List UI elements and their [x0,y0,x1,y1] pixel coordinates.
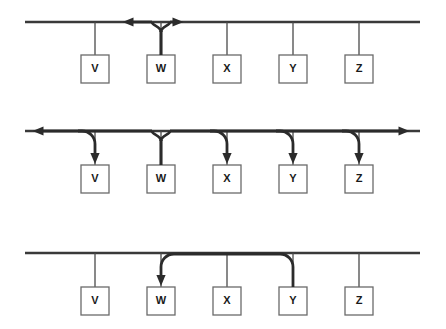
panel-2-receive-arrowhead-v [90,153,99,164]
panel-3-station-label-x: X [223,294,231,306]
network-bus-diagram: VWXYZVWXYZVWXYZ [0,0,446,329]
panel-2-source-fork-left [152,131,161,141]
panel-1-station-label-w: W [156,62,167,74]
panel-3-station-label-w: W [156,294,167,306]
panel-2-source-fork-right [161,131,170,141]
panel-1-station-label-y: Y [289,62,297,74]
panel-2-receive-arrowhead-z [354,153,363,164]
panel-1-station-label-v: V [91,62,99,74]
panel-1-source-fork-right [161,22,170,32]
panel-1-arrowhead-left [123,17,134,26]
panel-2-arrowhead-left [33,126,44,135]
panel-2-station-label-x: X [223,172,231,184]
panel-1-source-fork-left [152,22,161,32]
diagram-canvas: VWXYZVWXYZVWXYZ [0,0,446,329]
panel-3-station-label-z: Z [356,294,363,306]
panel-2-receive-branch-y [276,131,293,153]
panel-2-receive-branch-x [210,131,227,153]
panel-2-station-label-z: Z [356,172,363,184]
panel-2-receive-arrowhead-y [288,153,297,164]
panel-1-arrowhead-right [173,17,184,26]
panel-1-station-label-x: X [223,62,231,74]
panel-2-receive-branch-z [342,131,359,153]
panel-1-station-label-z: Z [356,62,363,74]
panel-2-receive-arrowhead-x [222,153,231,164]
panel-3-station-label-v: V [91,294,99,306]
panel-2-station-label-y: Y [289,172,297,184]
panel-2-receive-branch-v [78,131,95,153]
panel-2-arrowhead-right [399,126,410,135]
panel-2-station-label-v: V [91,172,99,184]
panel-3-station-label-y: Y [289,294,297,306]
panel-3-unicast-arrowhead [156,275,165,286]
panel-2-station-label-w: W [156,172,167,184]
